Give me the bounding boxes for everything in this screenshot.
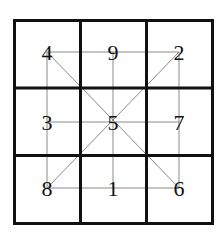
cell-r2-c3: 7 <box>174 110 185 135</box>
cell-r2-c2: 5 <box>108 110 119 135</box>
magic-square-diagram: 4 9 2 3 5 7 8 1 6 <box>0 0 221 245</box>
cell-r3-c3: 6 <box>174 176 185 201</box>
cell-r1-c1: 4 <box>42 40 53 65</box>
cell-r3-c1: 8 <box>42 176 53 201</box>
cell-r1-c3: 2 <box>174 40 185 65</box>
cell-r2-c1: 3 <box>42 110 53 135</box>
cell-r3-c2: 1 <box>108 176 119 201</box>
cell-numbers: 4 9 2 3 5 7 8 1 6 <box>42 40 185 201</box>
cell-r1-c2: 9 <box>108 40 119 65</box>
